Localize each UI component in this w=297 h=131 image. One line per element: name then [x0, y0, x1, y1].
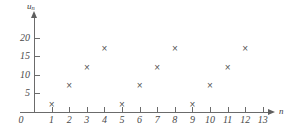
y-tick-label: 20	[6, 33, 30, 43]
data-point: ×	[153, 63, 162, 72]
data-point: ×	[65, 81, 74, 90]
y-tick	[35, 75, 40, 76]
x-tick	[69, 107, 70, 112]
origin-label: 0	[12, 114, 30, 126]
data-point: ×	[47, 100, 56, 109]
x-tick	[87, 107, 88, 112]
data-point: ×	[135, 81, 144, 90]
y-axis-arrow-icon	[31, 11, 37, 18]
data-point: ×	[188, 100, 197, 109]
x-axis-line	[20, 112, 270, 113]
y-axis-title: un	[27, 1, 35, 11]
y-tick	[35, 56, 40, 57]
x-tick	[104, 107, 105, 112]
x-tick	[210, 107, 211, 112]
y-axis-title-sub: n	[32, 4, 35, 11]
scatter-chart: un n 0 12345678910111213 5101520 ×××××××…	[0, 0, 297, 131]
x-tick	[245, 107, 246, 112]
data-point: ×	[241, 44, 250, 53]
y-tick-label: 15	[6, 51, 30, 61]
x-tick	[157, 107, 158, 112]
y-tick-label: 10	[6, 70, 30, 80]
y-tick-label: 5	[6, 88, 30, 98]
data-point: ×	[206, 81, 215, 90]
y-axis-line	[34, 17, 35, 113]
y-tick	[35, 38, 40, 39]
data-point: ×	[223, 63, 232, 72]
data-point: ×	[170, 44, 179, 53]
x-tick	[175, 107, 176, 112]
data-point: ×	[118, 100, 127, 109]
x-tick	[140, 107, 141, 112]
x-tick-label: 13	[253, 114, 273, 126]
y-tick	[35, 93, 40, 94]
data-point: ×	[82, 63, 91, 72]
x-tick	[228, 107, 229, 112]
x-tick	[263, 107, 264, 112]
data-point: ×	[100, 44, 109, 53]
x-axis-title: n	[279, 106, 284, 116]
